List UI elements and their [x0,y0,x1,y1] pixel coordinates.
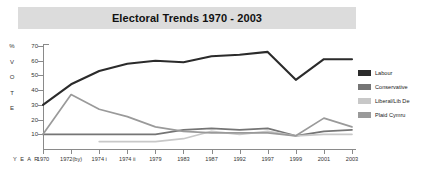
y-axis-tick-labels: 70605040302010 [18,0,38,177]
x-tick [71,150,72,154]
y-axis-title-letter: % [7,43,17,49]
legend-swatch [358,70,371,76]
y-tick-label: 10 [22,131,38,137]
legend-label: Plaid Cymru [375,112,405,118]
x-tick-label: 1974 i [92,156,107,162]
series-line [99,131,352,141]
series-line [43,52,352,105]
legend-label: Liberal/Lib De [375,98,410,104]
legend: LabourConservativeLiberal/Lib DePlaid Cy… [358,66,426,122]
y-axis-title-letter: V [7,59,17,65]
y-axis-title-letter: O [7,74,17,80]
x-tick-label: 1999 [290,156,302,162]
x-tick-label: 1974 ii [119,156,135,162]
x-tick [268,150,269,154]
x-tick-label: 1992 [233,156,245,162]
x-tick [324,150,325,154]
y-tick-label: 20 [22,117,38,123]
y-tick-label: 30 [22,102,38,108]
x-tick [352,150,353,154]
legend-item[interactable]: Liberal/Lib De [358,94,426,108]
x-tick [99,150,100,154]
legend-label: Conservative [375,84,408,90]
series-line [43,128,352,135]
chart-container: Electoral Trends 1970 - 2003 70605040302… [0,0,427,177]
legend-swatch [358,84,371,90]
x-tick-label: 1979 [149,156,161,162]
legend-item[interactable]: Plaid Cymru [358,108,426,122]
x-tick-label: 1972(by) [60,156,82,162]
y-tick-label: 70 [22,43,38,49]
y-axis-top-cap [43,44,49,45]
legend-swatch [358,98,371,104]
x-tick-label: 1997 [261,156,273,162]
series-line [43,95,352,136]
x-tick [212,150,213,154]
y-tick-label: 40 [22,87,38,93]
x-tick [43,150,44,154]
legend-item[interactable]: Labour [358,66,426,80]
x-tick-label: 1987 [205,156,217,162]
x-axis-title: Y E A R [13,156,39,162]
legend-item[interactable]: Conservative [358,80,426,94]
x-tick-label: 1983 [177,156,189,162]
legend-swatch [358,112,371,118]
chart-title: Electoral Trends 1970 - 2003 [18,7,356,29]
y-axis-title-letter: T [7,90,17,96]
y-tick-label: 60 [22,58,38,64]
x-tick [240,150,241,154]
y-tick-label: 50 [22,72,38,78]
y-axis-line [43,44,44,150]
x-tick [183,150,184,154]
legend-label: Labour [375,70,392,76]
x-tick-label: 2003 [346,156,358,162]
x-axis-line [43,149,356,150]
x-tick [127,150,128,154]
x-tick-label: 2001 [318,156,330,162]
y-axis-title-letter: E [7,105,17,111]
x-tick [155,150,156,154]
x-tick [296,150,297,154]
